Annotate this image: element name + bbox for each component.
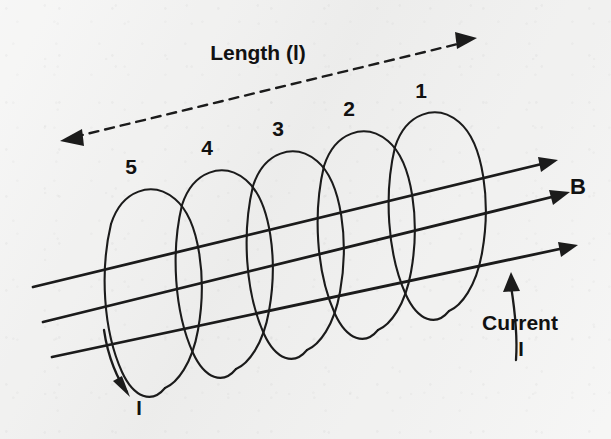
coil-front-arcs	[111, 112, 486, 388]
coil-turn-3-back	[247, 186, 307, 359]
length-dimension-right-arrowhead	[455, 32, 477, 49]
coil-turn-1-back	[389, 147, 449, 320]
field-line-top-arrowhead	[538, 157, 558, 172]
current-out-arrowhead	[113, 376, 130, 397]
magnetic-field-label: B	[570, 174, 586, 199]
coil-turn-4-back	[176, 205, 236, 378]
current-symbol-left: I	[136, 397, 142, 419]
coil-turn-label-3: 3	[272, 117, 284, 140]
current-symbol-right: I	[518, 338, 524, 360]
coil-turn-5-front	[111, 189, 202, 388]
field-line-middle-arrowhead	[549, 190, 570, 205]
solenoid-diagram: Length (l) 1 2 3 4 5 B Current I I	[0, 0, 611, 439]
diagram-canvas: Length (l) 1 2 3 4 5 B Current I I	[0, 0, 611, 439]
coil-turn-label-2: 2	[343, 97, 355, 120]
coil-turn-label-5: 5	[125, 155, 137, 178]
length-dimension-label: Length (l)	[210, 41, 306, 64]
coil-turn-label-4: 4	[201, 136, 213, 159]
coil-back-arcs	[105, 147, 449, 397]
field-line-bottom-arrowhead	[558, 242, 578, 257]
coil-turn-label-1: 1	[415, 79, 427, 102]
length-dimension-left-arrowhead	[60, 129, 84, 146]
coil-turn-5-back	[105, 224, 165, 397]
current-in-arrowhead	[503, 272, 520, 292]
current-label: Current	[482, 311, 558, 334]
